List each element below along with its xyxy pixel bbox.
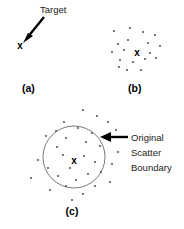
scatter-dot (111, 163, 113, 165)
target-arrow-head (23, 33, 33, 43)
panel-label-c: (c) (66, 205, 79, 217)
scatter-dot (85, 141, 87, 143)
scatter-dot (37, 159, 39, 161)
boundary-annotation-line-3: Boundary (131, 162, 172, 173)
scatter-boundary-figure: Target x (a) (0, 0, 184, 229)
scatter-dot (123, 49, 125, 51)
scatter-dot (65, 137, 67, 139)
scatter-dot (111, 51, 113, 53)
boundary-arrow-head (100, 132, 111, 142)
scatter-dot (144, 58, 146, 60)
scatter-dot (96, 115, 98, 117)
scatter-dot (71, 199, 73, 201)
scatter-dot (99, 145, 101, 147)
scatter-dot (159, 45, 161, 47)
boundary-annotation-line-1: Original (131, 132, 164, 143)
figure-canvas: Target x (a) (0, 0, 184, 229)
scatter-dot (94, 185, 96, 187)
scatter-dot (109, 181, 111, 183)
scatter-dot (119, 59, 121, 61)
scatter-dot (113, 30, 115, 32)
panel-b: x (b) (111, 27, 161, 94)
scatter-dot (49, 189, 51, 191)
panel-c: x Original Scatter Boundary (c) (30, 109, 172, 217)
scatter-dot (115, 129, 117, 131)
scatter-dot (82, 193, 84, 195)
scatter-dot (132, 61, 134, 63)
scatter-dot (127, 39, 129, 41)
scatter-dot (45, 135, 47, 137)
panel-a: Target x (a) (17, 4, 67, 94)
scatter-dot (30, 177, 32, 179)
scatter-dot (69, 167, 71, 169)
scatter-dot (117, 151, 119, 153)
scatter-dot (75, 179, 77, 181)
scatter-dot (149, 52, 151, 54)
scatter-dot (57, 175, 59, 177)
target-marker-b: x (134, 47, 140, 58)
boundary-annotation-line-2: Scatter (131, 147, 161, 158)
scatter-dot (117, 43, 119, 45)
target-annotation-label: Target (40, 4, 67, 15)
panel-label-b: (b) (128, 82, 141, 94)
scatter-dot (94, 161, 96, 163)
target-marker-c: x (71, 155, 77, 166)
scatter-dot (147, 42, 149, 44)
scatter-dot (129, 27, 131, 29)
scatter-dot (154, 34, 156, 36)
scatter-dot (56, 146, 58, 148)
scatter-dot (82, 109, 84, 111)
scatter-dot (107, 121, 109, 123)
panel-label-a: (a) (22, 82, 35, 94)
scatter-dot (126, 69, 128, 71)
scatter-dot (62, 154, 64, 156)
scatter-dot (63, 121, 65, 123)
target-marker-a: x (17, 40, 23, 51)
scatter-dot (47, 167, 49, 169)
scatter-dot (87, 173, 89, 175)
scatter-dot (118, 66, 120, 68)
target-arrow (23, 17, 44, 43)
scatter-dot (155, 57, 157, 59)
scatter-dot (77, 127, 79, 129)
boundary-annotation-arrow (100, 132, 128, 142)
scatter-dot (142, 31, 144, 33)
scatter-dot (140, 69, 142, 71)
scatter-dot (83, 155, 85, 157)
